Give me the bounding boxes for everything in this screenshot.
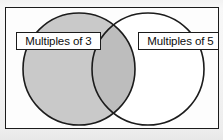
venn-circles-svg (6, 8, 219, 129)
venn-diagram-figure: Multiples of 3 Multiples of 5 (0, 0, 223, 140)
universal-set-rectangle: Multiples of 3 Multiples of 5 (5, 7, 219, 129)
set-label-left: Multiples of 3 (16, 32, 101, 50)
set-label-right: Multiples of 5 (138, 32, 219, 50)
